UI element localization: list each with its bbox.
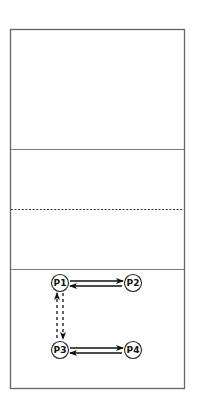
player-label: P4 bbox=[127, 345, 140, 355]
player-p2: P2 bbox=[125, 275, 142, 292]
player-p4: P4 bbox=[125, 342, 142, 359]
player-p1: P1 bbox=[52, 275, 69, 292]
player-label: P2 bbox=[127, 278, 140, 288]
player-p3: P3 bbox=[52, 342, 69, 359]
player-label: P1 bbox=[54, 278, 67, 288]
player-label: P3 bbox=[54, 345, 67, 355]
court-diagram: P1 P2 P3 P4 bbox=[0, 0, 197, 409]
